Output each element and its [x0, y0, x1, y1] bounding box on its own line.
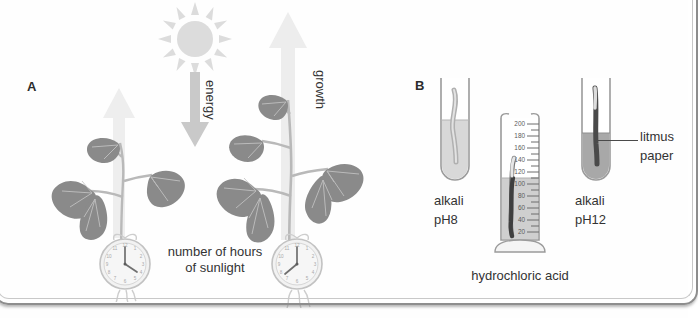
page-frame-inner-border [0, 0, 693, 299]
